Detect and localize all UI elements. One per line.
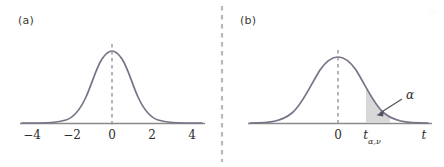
statistics-figure: (a) (b) −4 −2 0 2 4 0 tα,ν t α m [0,0,444,167]
critical-value-subscript: α,ν [368,137,381,146]
panel-a-tick-label-minus2: −2 [63,128,81,142]
faint-watermark: m [429,6,438,17]
panel-a-tick-label-zero: 0 [108,128,116,142]
panel-b-density-curve [250,57,428,123]
alpha-annotation-label: α [406,88,414,102]
panel-b-graphics [248,50,432,126]
panel-a-label: (a) [18,14,34,27]
panel-b-tick-label-zero: 0 [334,128,342,142]
panel-a-tick-label-minus4: −4 [23,128,41,142]
panel-a-tick-label-four: 4 [188,128,196,142]
panel-a-tick-label-two: 2 [148,128,156,142]
panel-b-label: (b) [240,14,256,27]
panel-a-graphics [20,44,205,126]
panel-b-x-axis-label: t [422,128,427,142]
panel-b-critical-value-label: tα,ν [363,128,381,144]
panel-b-alpha-shaded-tail [250,57,428,123]
